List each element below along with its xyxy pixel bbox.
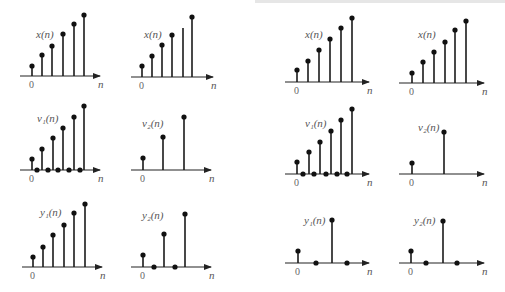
diagram-canvas: x(n)0nx(n)0nv₁(n)0nv₂(n)0ny₁(n)0ny₂(n)0n… <box>0 0 505 292</box>
stem-marker <box>328 128 333 133</box>
stem-marker <box>71 210 76 215</box>
signal-label: v₂(n) <box>142 117 164 130</box>
stem-plot-L-r1-c1: x(n)0n <box>20 12 104 90</box>
zero-sample-marker <box>313 260 318 265</box>
signal-label: x(n) <box>417 28 436 41</box>
origin-label: 0 <box>140 173 145 184</box>
stem-plot-R-r1-c2: x(n)0n <box>399 18 488 97</box>
stem-marker <box>30 254 35 259</box>
origin-label: 0 <box>140 270 145 281</box>
zero-sample-marker <box>454 260 459 265</box>
stem-marker <box>82 201 87 206</box>
axis-label-n: n <box>209 269 215 281</box>
zero-sample-marker <box>172 264 177 269</box>
signal-label: y₂(n) <box>141 209 164 222</box>
stem-marker <box>50 135 55 140</box>
axis-label-n: n <box>98 172 104 184</box>
zero-sample-marker <box>55 167 60 172</box>
stem-plot-R-r1-c1: x(n)0n <box>285 15 373 96</box>
stem-marker <box>39 52 44 57</box>
stem-marker <box>442 39 447 44</box>
stem-plot-L-r3-c1: y₁(n)0n <box>22 201 106 281</box>
stem-plot-L-r1-c2: x(n)0n <box>131 14 217 91</box>
axis-label-n: n <box>367 84 373 96</box>
stem-marker <box>316 47 321 52</box>
stem-plot-L-r2-c1: v₁(n)0n <box>20 103 104 184</box>
origin-label: 0 <box>139 80 144 91</box>
stem-marker <box>463 18 468 23</box>
stem-marker <box>161 231 166 236</box>
stem-plot-R-r2-c1: v₁(n)0n <box>285 106 373 188</box>
zero-sample-marker <box>344 260 349 265</box>
stem-plots-figure: x(n)0nx(n)0nv₁(n)0nv₂(n)0ny₁(n)0ny₂(n)0n… <box>0 0 505 292</box>
stem-plot-R-r2-c2: v₂(n)0n <box>399 121 488 188</box>
stem-marker <box>409 70 414 75</box>
stem-marker <box>49 43 54 48</box>
signal-label: y₁(n) <box>303 214 326 227</box>
stem-marker <box>349 15 354 20</box>
stem-marker <box>139 63 144 68</box>
stem-marker <box>294 159 299 164</box>
zero-sample-marker <box>77 167 82 172</box>
stem-marker <box>189 14 194 19</box>
stem-marker <box>329 217 334 222</box>
axis-label-n: n <box>100 269 106 281</box>
stem-marker <box>305 58 310 63</box>
stem-marker <box>50 232 55 237</box>
stem-marker <box>81 103 86 108</box>
signal-label: x(n) <box>304 28 323 41</box>
stem-marker <box>71 21 76 26</box>
zero-sample-marker <box>334 171 339 176</box>
stem-marker <box>169 32 174 37</box>
origin-label: 0 <box>409 86 414 97</box>
stem-plot-L-r2-c2: v₂(n)0n <box>131 114 215 184</box>
origin-label: 0 <box>294 177 299 188</box>
signal-label: v₂(n) <box>418 121 440 134</box>
stem-marker <box>306 149 311 154</box>
origin-label: 0 <box>29 173 34 184</box>
stem-marker <box>61 222 66 227</box>
zero-sample-marker <box>423 260 428 265</box>
stem-plot-R-r3-c2: y₂(n)0n <box>399 214 488 277</box>
zero-sample-marker <box>344 171 349 176</box>
stem-marker <box>29 63 34 68</box>
signal-label: x(n) <box>143 28 162 41</box>
zero-sample-marker <box>45 167 50 172</box>
signal-label: v₁(n) <box>305 117 327 130</box>
zero-sample-marker <box>66 167 71 172</box>
stem-marker <box>420 59 425 64</box>
zero-sample-marker <box>300 171 305 176</box>
signal-label: y₁(n) <box>39 206 62 219</box>
axis-label-n: n <box>482 265 488 277</box>
stem-marker <box>440 218 445 223</box>
stem-marker <box>149 53 154 58</box>
stem-marker <box>338 25 343 30</box>
stem-marker <box>81 12 86 17</box>
stem-marker <box>29 156 34 161</box>
zero-sample-marker <box>311 171 316 176</box>
origin-label: 0 <box>408 266 413 277</box>
axis-label-n: n <box>482 176 488 188</box>
stem-marker <box>40 244 45 249</box>
stem-marker <box>409 160 414 165</box>
stem-marker <box>431 49 436 54</box>
origin-label: 0 <box>29 79 34 90</box>
axis-label-n: n <box>98 78 104 90</box>
stem-marker <box>295 248 300 253</box>
stem-marker <box>181 114 186 119</box>
stem-marker <box>60 31 65 36</box>
zero-sample-marker <box>151 264 156 269</box>
axis-label-n: n <box>211 79 217 91</box>
stem-marker <box>160 134 165 139</box>
stem-marker <box>39 146 44 151</box>
axis-label-n: n <box>367 176 373 188</box>
origin-label: 0 <box>294 85 299 96</box>
axis-label-n: n <box>367 265 373 277</box>
stem-marker <box>317 139 322 144</box>
stem-marker <box>140 155 145 160</box>
signal-label: y₂(n) <box>413 214 436 227</box>
stem-marker <box>408 248 413 253</box>
stem-marker <box>71 114 76 119</box>
signal-label: x(n) <box>35 28 54 41</box>
stem-plot-R-r3-c1: y₁(n)0n <box>285 214 373 277</box>
